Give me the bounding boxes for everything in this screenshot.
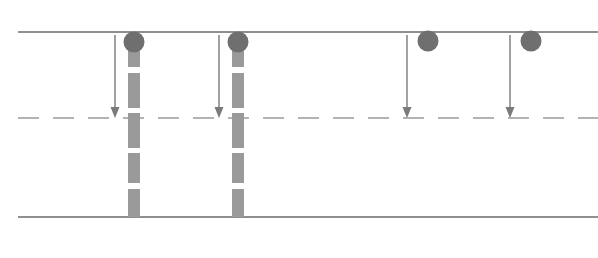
- arrow-1-head-icon: [111, 107, 120, 118]
- arrow-3-head-icon: [403, 107, 412, 118]
- road-diagram-canvas: [0, 0, 598, 258]
- arrow-layer: [111, 35, 515, 118]
- trajectory-2-segment-3: [232, 113, 244, 148]
- trajectory-1-segment-4: [128, 153, 140, 183]
- trajectory-2: [232, 45, 244, 217]
- road-layer: [18, 32, 598, 217]
- trajectory-2-segment-4: [232, 153, 244, 183]
- trajectory-1-segment-5: [128, 189, 140, 217]
- trajectory-2-segment-2: [232, 73, 244, 108]
- trajectory-2-segment-5: [232, 189, 244, 217]
- vehicle-4-circle-icon: [521, 31, 542, 52]
- arrow-1: [111, 35, 120, 118]
- trajectory-1-segment-3: [128, 113, 140, 148]
- arrow-2: [215, 35, 224, 118]
- road-diagram-svg: [0, 0, 598, 258]
- vehicle-1-circle-icon: [124, 32, 145, 53]
- arrow-4-head-icon: [506, 107, 515, 118]
- trajectory-1-segment-2: [128, 73, 140, 108]
- arrow-2-head-icon: [215, 107, 224, 118]
- vehicle-layer: [124, 31, 542, 53]
- vehicle-3-circle-icon: [418, 31, 439, 52]
- trajectory-layer: [128, 45, 244, 217]
- arrow-3: [403, 35, 412, 118]
- trajectory-1: [128, 45, 140, 217]
- vehicle-2-circle-icon: [228, 32, 249, 53]
- arrow-4: [506, 35, 515, 118]
